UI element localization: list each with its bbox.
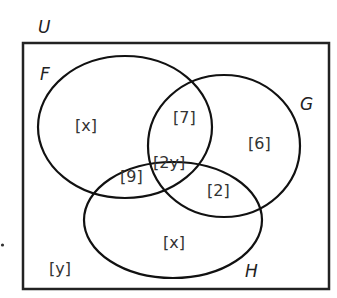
region-f-g-h: [2y] [153, 153, 185, 172]
region-f-and-g: [7] [173, 108, 196, 127]
region-g-only: [6] [248, 134, 271, 153]
region-f-and-h: [9] [120, 167, 143, 186]
region-outside: [y] [49, 259, 71, 278]
dot-mark [1, 243, 4, 246]
universal-set-label: U [38, 17, 51, 37]
venn-diagram: U F G H [x] [7] [6] [9] [2y] [2] [x] [y] [0, 0, 337, 298]
region-h-only: [x] [163, 233, 185, 252]
set-f-label: F [40, 64, 50, 84]
set-h-label: H [245, 261, 258, 281]
region-g-and-h: [2] [207, 181, 230, 200]
set-h-ellipse [84, 162, 262, 278]
region-f-only: [x] [75, 116, 97, 135]
set-g-label: G [300, 94, 313, 114]
